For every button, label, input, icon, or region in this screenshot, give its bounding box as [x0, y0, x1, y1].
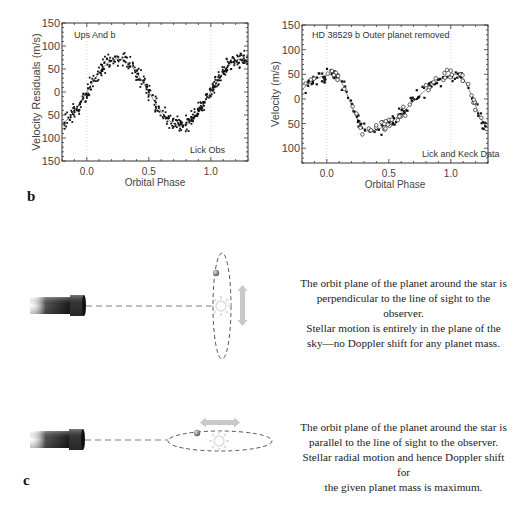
- panel-label-c: c: [23, 472, 30, 489]
- caption-line: The orbit plane of the planet around the…: [296, 420, 511, 435]
- diagram-parallel: [30, 418, 272, 452]
- caption-perpendicular: The orbit plane of the planet around the…: [296, 276, 511, 351]
- diagram-perpendicular: [30, 253, 248, 359]
- caption-line: the given planet mass is maximum.: [296, 480, 511, 495]
- star-icon: [209, 431, 229, 451]
- caption-parallel: The orbit plane of the planet around the…: [296, 420, 511, 495]
- vertical-motion-arrow-icon: [238, 285, 248, 326]
- caption-line: sky—no Doppler shift for any planet mass…: [296, 336, 511, 351]
- planet-icon: [213, 270, 219, 276]
- horizontal-motion-arrow-icon: [200, 418, 240, 428]
- caption-line: The orbit plane of the planet around the…: [296, 276, 511, 291]
- star-icon: [211, 296, 231, 316]
- caption-line: parallel to the line of sight to the obs…: [296, 435, 511, 450]
- caption-line: perpendicular to the line of sight to th…: [296, 291, 511, 321]
- caption-line: Stellar radial motion and hence Doppler …: [296, 450, 511, 480]
- telescope-icon: [30, 429, 85, 450]
- planet-icon: [194, 430, 200, 436]
- telescope-icon: [30, 295, 86, 316]
- caption-line: Stellar motion is entirely in the plane …: [296, 321, 511, 336]
